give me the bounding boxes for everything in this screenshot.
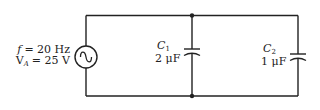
junction-top-dot [190, 13, 194, 17]
circuit-diagram: f= 20 Hz VA= 25 V C1 2 μF C2 1 μF [0, 0, 320, 110]
c1-value-label: 2 μF [155, 52, 181, 65]
c1-name-label: C1 [157, 39, 170, 53]
circuit-svg: f= 20 Hz VA= 25 V C1 2 μF C2 1 μF [0, 0, 320, 110]
junction-bottom-dot [190, 94, 194, 98]
source-voltage-label: VA= 25 V [15, 54, 71, 68]
ac-source-icon [75, 46, 97, 68]
c2-value-label: 1 μF [261, 55, 287, 68]
c2-name-label: C2 [263, 42, 276, 56]
